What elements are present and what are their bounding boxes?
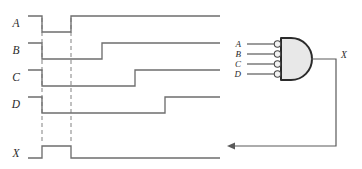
gate-input-label-a: A [235, 39, 242, 49]
input-inversion-bubble-icon-c [274, 61, 280, 67]
timing-diagram-group: A B C D X [11, 16, 220, 159]
waveform-b [28, 43, 220, 59]
waveform-x [28, 146, 220, 158]
feedback-arrow-icon [227, 143, 235, 150]
waveform-label-c: C [12, 71, 20, 83]
input-inversion-bubble-icon-b [274, 51, 280, 57]
waveform-label-x: X [11, 147, 20, 159]
gate-input-label-b: B [236, 49, 242, 59]
input-inversion-bubble-icon-d [274, 71, 280, 77]
timing-diagram-figure: A B C D X A B C D [0, 0, 362, 169]
waveform-label-a: A [11, 17, 20, 29]
and-gate-body [281, 38, 312, 80]
circuit-group: A B C D X [227, 38, 348, 149]
gate-output-label-x: X [340, 50, 348, 60]
gate-input-label-c: C [235, 59, 242, 69]
waveform-d [28, 97, 220, 113]
figure-canvas: A B C D X A B C D [0, 0, 362, 169]
gate-input-label-d: D [234, 69, 242, 79]
waveform-label-d: D [11, 98, 21, 110]
waveform-a [28, 16, 220, 32]
input-inversion-bubble-icon-a [274, 41, 280, 47]
waveform-c [28, 70, 220, 86]
waveform-label-b: B [12, 44, 19, 56]
